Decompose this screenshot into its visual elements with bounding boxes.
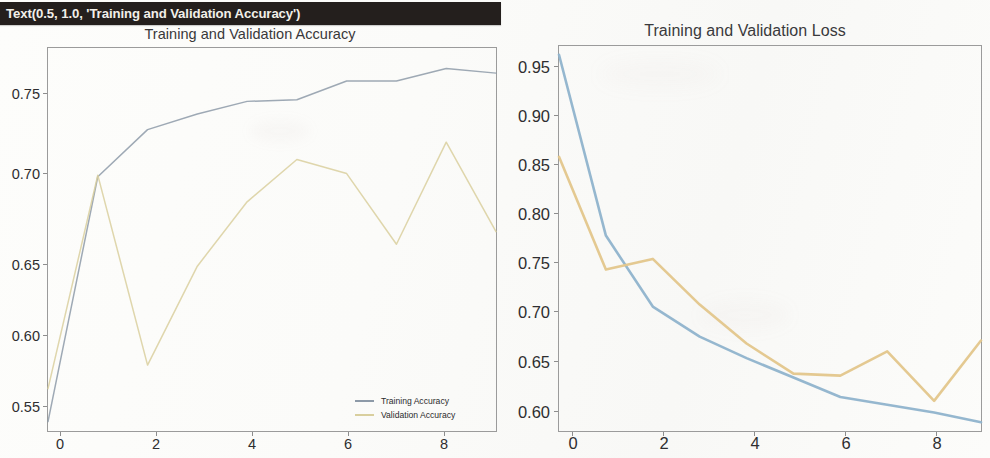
accuracy-legend-item-validation: Validation Accuracy xyxy=(355,408,455,422)
loss-ytick-6: 0.90 xyxy=(500,107,550,126)
loss-ytick-4: 0.80 xyxy=(500,205,550,224)
page-canvas: Text(0.5, 1.0, 'Training and Validation … xyxy=(0,0,990,458)
loss-xtick-3: 6 xyxy=(831,434,861,453)
loss-xtickmark xyxy=(572,432,573,436)
accuracy-legend-label-validation: Validation Accuracy xyxy=(381,410,455,420)
accuracy-legend-swatch-validation xyxy=(355,414,374,416)
accuracy-ytick-1: 0.60 xyxy=(0,328,40,344)
loss-chart-panel: Training and Validation Loss 0.60 0.65 0… xyxy=(500,0,990,458)
accuracy-legend: Training Accuracy Validation Accuracy xyxy=(355,394,455,422)
accuracy-legend-swatch-training xyxy=(355,400,374,402)
accuracy-chart-panel: Training and Validation Accuracy 0.55 0.… xyxy=(0,0,500,458)
loss-ytick-5: 0.85 xyxy=(500,156,550,175)
accuracy-ytick-0: 0.55 xyxy=(0,399,40,415)
loss-xtickmark xyxy=(754,432,755,436)
accuracy-legend-item-training: Training Accuracy xyxy=(355,394,455,408)
series-line-training-accuracy xyxy=(48,68,496,421)
loss-xtick-1: 2 xyxy=(649,434,679,453)
accuracy-xtickmark xyxy=(348,432,349,436)
accuracy-ytick-3: 0.70 xyxy=(0,166,40,182)
accuracy-ytick-2: 0.65 xyxy=(0,257,40,273)
accuracy-xtick-0: 0 xyxy=(47,436,73,452)
accuracy-xtickmark xyxy=(252,432,253,436)
accuracy-plot-area xyxy=(47,47,497,432)
loss-xtickmark xyxy=(936,432,937,436)
loss-xtick-0: 0 xyxy=(558,434,588,453)
accuracy-xtick-4: 8 xyxy=(431,436,457,452)
loss-ytick-3: 0.75 xyxy=(500,254,550,273)
accuracy-xtickmark xyxy=(444,432,445,436)
loss-plot-area xyxy=(558,45,982,432)
series-line-validation-accuracy xyxy=(48,142,496,388)
accuracy-plot-svg xyxy=(48,48,496,431)
accuracy-xtickmark xyxy=(156,432,157,436)
loss-ytick-1: 0.65 xyxy=(500,353,550,372)
loss-chart-title: Training and Validation Loss xyxy=(500,22,990,40)
loss-xtickmark xyxy=(845,432,846,436)
loss-plot-svg xyxy=(559,46,981,431)
accuracy-legend-label-training: Training Accuracy xyxy=(381,396,449,406)
accuracy-chart-title: Training and Validation Accuracy xyxy=(0,26,500,42)
loss-ytick-7: 0.95 xyxy=(500,58,550,77)
series-line-training-loss xyxy=(559,55,981,422)
loss-xtickmark xyxy=(663,432,664,436)
accuracy-xtickmark xyxy=(60,432,61,436)
loss-ytick-0: 0.60 xyxy=(500,403,550,422)
series-line-validation-loss xyxy=(559,157,981,401)
loss-ytick-2: 0.70 xyxy=(500,303,550,322)
accuracy-ytick-4: 0.75 xyxy=(0,86,40,102)
accuracy-xtick-1: 2 xyxy=(143,436,169,452)
loss-xtick-2: 4 xyxy=(740,434,770,453)
loss-xtick-4: 8 xyxy=(922,434,952,453)
accuracy-xtick-3: 6 xyxy=(335,436,361,452)
accuracy-xtick-2: 4 xyxy=(239,436,265,452)
